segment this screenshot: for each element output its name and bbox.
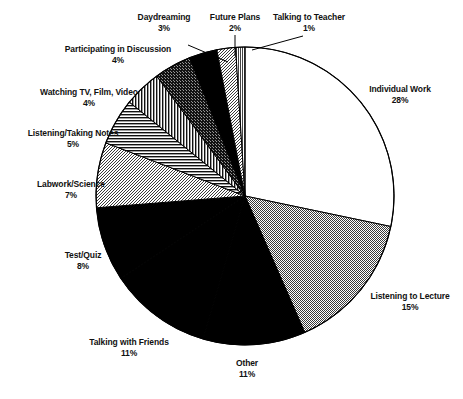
- slice-label-watching-tv-percent: 4%: [23, 98, 155, 109]
- slice-label-watching-tv-name: Watching TV, Film, Video: [23, 87, 155, 98]
- slice-label-listening-taking-notes: Listening/Taking Notes 5%: [14, 128, 132, 149]
- slice-label-talking-to-teacher-percent: 1%: [261, 23, 357, 34]
- slice-label-listening-taking-notes-percent: 5%: [14, 139, 132, 150]
- slice-label-individual-work-percent: 28%: [356, 95, 444, 106]
- slice-label-daydreaming-percent: 3%: [124, 23, 204, 34]
- slice-label-daydreaming-name: Daydreaming: [124, 12, 204, 23]
- slice-label-listening-to-lecture-name: Listening to Lecture: [357, 291, 463, 302]
- slice-label-watching-tv: Watching TV, Film, Video 4%: [23, 87, 155, 108]
- pie-slice-individual-work: [245, 47, 394, 227]
- slice-label-labwork-science-percent: 7%: [24, 190, 118, 201]
- slice-label-participating-in-discussion: Participating in Discussion 4%: [52, 44, 184, 65]
- pie-chart-page: Daydreaming 3% Future Plans 2% Talking t…: [0, 0, 463, 399]
- slice-label-participating-in-discussion-name: Participating in Discussion: [52, 44, 184, 55]
- slice-label-participating-in-discussion-percent: 4%: [52, 55, 184, 66]
- slice-label-other: Other 11%: [216, 358, 278, 379]
- slice-label-test-quiz: Test/Quiz 8%: [50, 250, 116, 271]
- slice-label-individual-work: Individual Work 28%: [356, 84, 444, 105]
- slice-label-listening-to-lecture: Listening to Lecture 15%: [357, 291, 463, 312]
- slice-label-talking-with-friends-name: Talking with Friends: [77, 337, 181, 348]
- slice-label-listening-to-lecture-percent: 15%: [357, 302, 463, 313]
- slice-label-other-name: Other: [216, 358, 278, 369]
- slice-label-test-quiz-percent: 8%: [50, 261, 116, 272]
- slice-label-talking-with-friends: Talking with Friends 11%: [77, 337, 181, 358]
- slice-label-talking-to-teacher-name: Talking to Teacher: [261, 12, 357, 23]
- leader-line-talking-to-teacher: [252, 36, 303, 50]
- slice-label-talking-with-friends-percent: 11%: [77, 348, 181, 359]
- slice-label-labwork-science: Labwork/Science 7%: [24, 179, 118, 200]
- slice-label-test-quiz-name: Test/Quiz: [50, 250, 116, 261]
- slice-label-talking-to-teacher: Talking to Teacher 1%: [261, 12, 357, 33]
- slice-label-listening-taking-notes-name: Listening/Taking Notes: [14, 128, 132, 139]
- slice-label-other-percent: 11%: [216, 369, 278, 380]
- slice-label-daydreaming: Daydreaming 3%: [124, 12, 204, 33]
- slice-label-individual-work-name: Individual Work: [356, 84, 444, 95]
- slice-label-labwork-science-name: Labwork/Science: [24, 179, 118, 190]
